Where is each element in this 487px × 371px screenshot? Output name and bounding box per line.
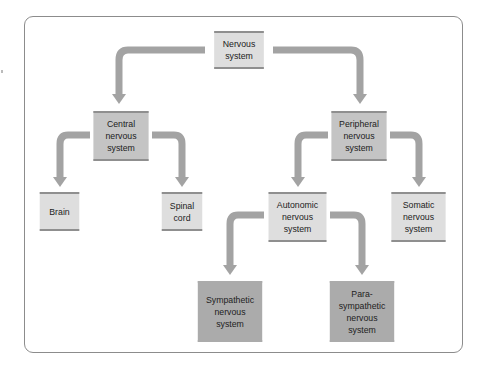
node-label: Somatic nervous system (403, 199, 435, 235)
node-autonomic-nervous-system: Autonomic nervous system (269, 192, 327, 242)
arrowhead-icon (355, 265, 369, 275)
node-label: Para- sympathetic nervous system (339, 288, 386, 336)
node-spinal-cord: Spinal cord (162, 192, 202, 231)
arrowhead-icon (175, 177, 189, 187)
arrow-root-central (119, 50, 205, 95)
node-central-nervous-system: Central nervous system (93, 111, 148, 161)
node-label: Nervous system (223, 38, 256, 62)
arrow-peripheral-somatic (390, 135, 419, 178)
arrowhead-icon (291, 177, 305, 187)
node-nervous-system: Nervous system (214, 31, 264, 69)
node-parasympathetic-nervous-system: Para- sympathetic nervous system (330, 281, 394, 342)
arrowhead-icon (412, 177, 426, 187)
node-somatic-nervous-system: Somatic nervous system (391, 192, 445, 242)
node-sympathetic-nervous-system: Sympathetic nervous system (198, 281, 262, 342)
node-brain: Brain (40, 192, 80, 231)
node-label: Brain (49, 206, 69, 218)
arrowhead-icon (112, 94, 126, 104)
arrow-autonomic-sympathetic (230, 215, 264, 266)
arrow-central-spinal (152, 135, 182, 178)
arrowhead-icon (223, 265, 237, 275)
node-label: Autonomic nervous system (277, 199, 318, 235)
node-peripheral-nervous-system: Peripheral nervous system (331, 111, 386, 161)
node-label: Spinal cord (170, 200, 194, 224)
arrow-peripheral-autonomic (298, 135, 328, 178)
node-label: Sympathetic nervous system (206, 294, 254, 330)
arrow-central-brain (60, 135, 90, 178)
arrow-autonomic-parasympathetic (330, 215, 362, 266)
node-label: Peripheral nervous system (339, 118, 379, 154)
node-label: Central nervous system (105, 118, 136, 154)
arrowhead-icon (53, 177, 67, 187)
arrowhead-icon (353, 94, 367, 104)
arrow-root-peripheral (273, 50, 360, 95)
